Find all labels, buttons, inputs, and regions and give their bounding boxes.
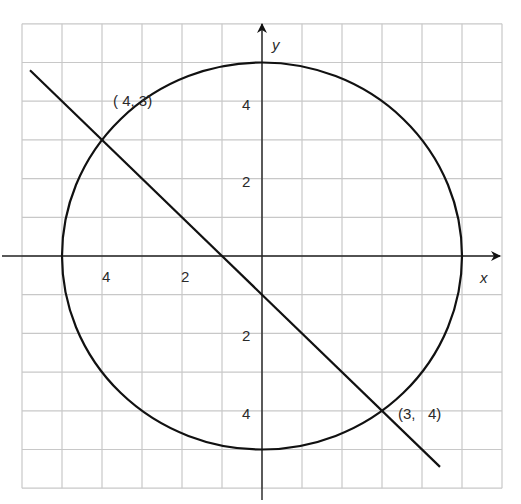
y-tick-label: 4 — [242, 96, 250, 113]
x-tick-label: 2 — [181, 268, 189, 285]
coordinate-plane: y x 4 2 4 2 2 4 ( 4, 3) (3, 4) — [0, 0, 521, 504]
x-axis-label: x — [479, 269, 488, 286]
intersection-label-b: (3, 4) — [398, 405, 441, 422]
secant-line — [30, 70, 440, 467]
y-axis-label: y — [271, 36, 281, 53]
intersection-label-a: ( 4, 3) — [113, 92, 152, 109]
x-tick-label: 4 — [102, 268, 110, 285]
y-tick-label: 2 — [242, 173, 250, 190]
y-tick-label: 2 — [242, 327, 250, 344]
y-tick-label: 4 — [242, 405, 250, 422]
